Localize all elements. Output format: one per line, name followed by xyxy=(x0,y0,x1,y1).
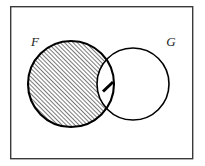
set-label-f: F xyxy=(30,34,40,49)
shaded-region-f-minus-g xyxy=(0,0,205,166)
venn-diagram-canvas: F G xyxy=(0,0,205,166)
venn-diagram-figure: F G xyxy=(0,0,205,166)
set-label-g: G xyxy=(166,34,176,49)
